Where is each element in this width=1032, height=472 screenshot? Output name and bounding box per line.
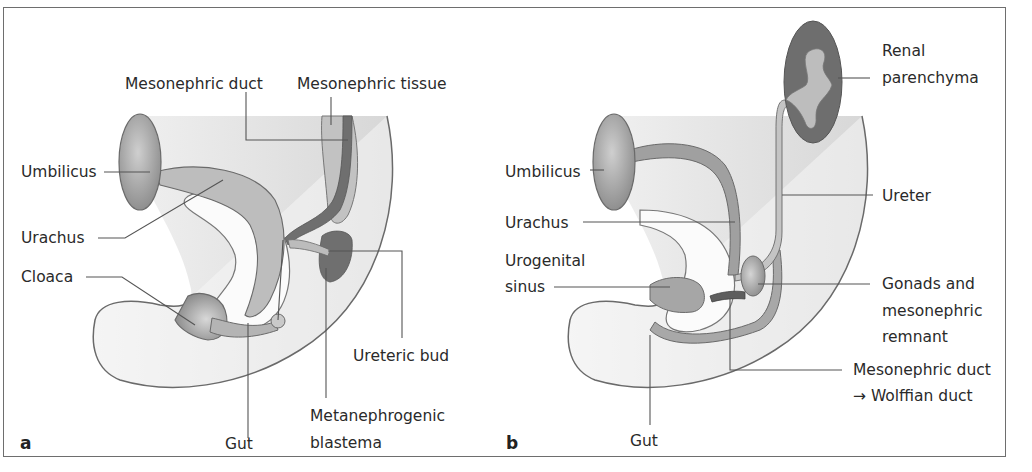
label-urachus-a: Urachus <box>21 229 84 247</box>
label-wolffian-duct-b: → Wolffian duct <box>853 387 973 405</box>
label-gut-b: Gut <box>630 432 658 450</box>
label-cloaca-a: Cloaca <box>21 268 73 286</box>
panel-letter-b: b <box>506 433 518 453</box>
label-mesonephric-duct-a: Mesonephric duct <box>125 75 263 93</box>
umbilicus-b <box>593 114 635 210</box>
gonad-b <box>741 256 765 296</box>
label-remnant-b: remnant <box>882 328 948 346</box>
label-umbilicus-b: Umbilicus <box>505 163 581 181</box>
panel-a: Mesonephric duct Mesonephric tissue Umbi… <box>20 75 449 453</box>
label-gut-a: Gut <box>225 435 253 453</box>
panel-b: Renal parenchyma Umbilicus Ureter Urachu… <box>505 21 991 453</box>
umbilicus-a <box>119 114 161 210</box>
label-renal-b: Renal <box>882 42 925 60</box>
embryology-diagram: Mesonephric duct Mesonephric tissue Umbi… <box>0 0 1032 472</box>
panel-letter-a: a <box>20 433 31 453</box>
label-blastema-a: blastema <box>310 434 382 452</box>
label-ureteric-bud-a: Ureteric bud <box>353 347 449 365</box>
label-mesonephric-duct-b: Mesonephric duct <box>853 361 991 379</box>
label-sinus-b: sinus <box>505 278 545 296</box>
label-ureter-b: Ureter <box>882 187 932 205</box>
label-mesonephric-b: mesonephric <box>882 302 982 320</box>
label-urachus-b: Urachus <box>505 214 568 232</box>
label-umbilicus-a: Umbilicus <box>21 163 97 181</box>
label-mesonephric-tissue-a: Mesonephric tissue <box>297 75 447 93</box>
label-urogenital-b: Urogenital <box>505 252 585 270</box>
label-metanephrogenic-a: Metanephrogenic <box>310 407 445 425</box>
label-parenchyma-b: parenchyma <box>882 69 979 87</box>
label-gonads-b: Gonads and <box>882 275 975 293</box>
